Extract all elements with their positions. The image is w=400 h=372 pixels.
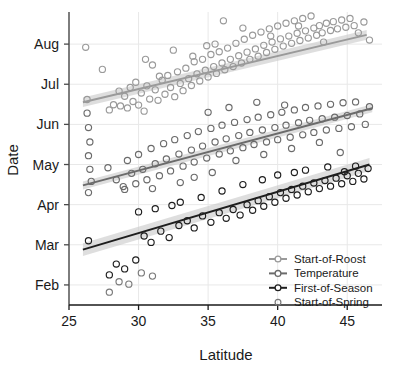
x-tick-label: 25 [61,313,77,329]
chart-figure: 2530354045 FebMarAprMayJunJulAug Latitud… [0,0,400,372]
x-axis-title: Latitude [199,346,252,363]
y-tick-label: Jun [36,116,59,132]
x-tick-label: 45 [339,313,355,329]
scatter-plot-svg: 2530354045 FebMarAprMayJunJulAug Latitud… [0,0,400,372]
y-axis-title: Date [4,144,21,176]
legend-label: Start-of-Spring [294,296,369,308]
y-tick-label: Jul [41,76,59,92]
y-tick-label: Mar [35,237,59,253]
legend-label: First-of-Season [294,282,373,294]
y-tick-label: Aug [34,36,59,52]
legend-label: Start-of-Roost [294,253,366,265]
y-tick-label: Feb [35,277,59,293]
x-tick-label: 35 [200,313,216,329]
y-tick-label: Apr [37,197,59,213]
x-tick-label: 30 [131,313,147,329]
x-tick-label: 40 [270,313,286,329]
legend-label: Temperature [294,267,359,279]
y-tick-label: May [33,157,59,173]
